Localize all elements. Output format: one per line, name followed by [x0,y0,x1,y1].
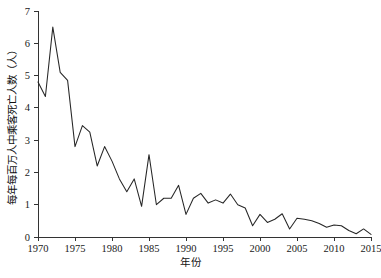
x-tick-label: 1970 [28,243,49,254]
x-tick-label: 1990 [176,243,197,254]
y-tick-label: 1 [25,199,30,210]
x-tick-label: 1995 [213,243,234,254]
data-series-line [38,27,371,234]
x-tick-label: 2005 [287,243,308,254]
x-tick-label: 2000 [250,243,271,254]
x-tick-label: 1980 [102,243,123,254]
x-tick-label: 2010 [324,243,345,254]
y-axis-ticks [34,11,38,237]
x-tick-label: 2015 [361,243,381,254]
y-axis-tick-labels: 01234567 [25,6,31,243]
y-tick-label: 0 [25,232,30,243]
x-axis-ticks [38,237,371,241]
y-tick-label: 2 [25,167,30,178]
y-tick-label: 5 [25,70,30,81]
x-axis-title: 年份 [0,256,381,269]
y-axis-title: 每年每百万人中乘客死亡人数（人） [6,10,18,240]
y-tick-label: 6 [25,38,30,49]
chart-container: 01234567 1970197519801985199019952000200… [0,0,381,278]
y-tick-label: 7 [25,6,30,17]
x-tick-label: 1975 [65,243,86,254]
y-tick-label: 3 [25,135,30,146]
line-chart-plot: 01234567 1970197519801985199019952000200… [0,0,381,278]
x-axis-tick-labels: 1970197519801985199019952000200520102015 [28,243,381,254]
x-tick-label: 1985 [139,243,160,254]
y-tick-label: 4 [25,102,31,113]
